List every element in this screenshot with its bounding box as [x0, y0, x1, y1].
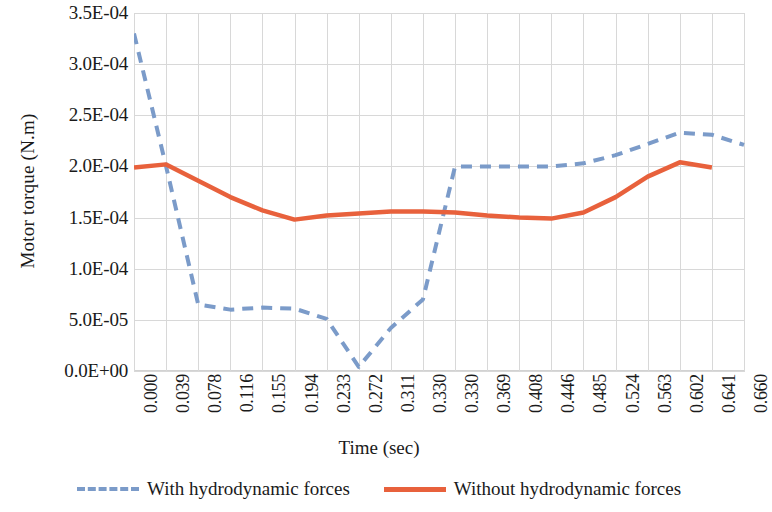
legend-swatch-dashed-icon	[77, 487, 139, 491]
x-tick-label: 0.369	[494, 374, 515, 413]
x-tick-label: 0.272	[366, 374, 387, 413]
chart-svg	[134, 13, 745, 371]
y-tick-label: 5.0E-05	[69, 309, 128, 331]
y-tick-label: 0.0E+00	[64, 360, 128, 382]
x-tick-label: 0.194	[302, 374, 323, 413]
y-axis-tick-labels: 0.0E+005.0E-051.0E-041.5E-042.0E-042.5E-…	[28, 0, 128, 390]
x-tick-label: 0.641	[719, 374, 740, 413]
legend-label: With hydrodynamic forces	[147, 478, 350, 500]
y-tick-label: 1.5E-04	[69, 207, 128, 229]
x-tick-label: 0.660	[751, 374, 772, 413]
x-axis-tick-labels: 0.0000.0390.0780.1160.1550.1940.2330.272…	[134, 374, 745, 436]
legend-item-without-hydrodynamic-forces: Without hydrodynamic forces	[384, 478, 681, 500]
y-tick-label: 3.0E-04	[69, 53, 128, 75]
legend-swatch-solid-icon	[384, 487, 446, 492]
y-tick-label: 3.5E-04	[69, 2, 128, 24]
legend-label: Without hydrodynamic forces	[454, 478, 681, 500]
series-line	[134, 162, 712, 219]
y-tick-label: 2.0E-04	[69, 155, 128, 177]
x-tick-label: 0.602	[687, 374, 708, 413]
x-tick-label: 0.233	[334, 374, 355, 413]
series-line	[134, 33, 744, 366]
series-canvas	[134, 13, 745, 371]
x-tick-label: 0.524	[623, 374, 644, 413]
legend-item-with-hydrodynamic-forces: With hydrodynamic forces	[77, 478, 350, 500]
y-tick-label: 1.0E-04	[69, 258, 128, 280]
y-tick-label: 2.5E-04	[69, 104, 128, 126]
x-tick-label: 0.155	[269, 374, 290, 413]
x-tick-label: 0.563	[655, 374, 676, 413]
plot-area	[134, 13, 745, 371]
x-tick-label: 0.078	[205, 374, 226, 413]
x-tick-label: 0.330	[462, 374, 483, 413]
x-tick-label: 0.000	[141, 374, 162, 413]
chart-legend: With hydrodynamic forces Without hydrody…	[0, 478, 758, 500]
x-tick-label: 0.408	[526, 374, 547, 413]
x-tick-label: 0.485	[590, 374, 611, 413]
x-tick-label: 0.446	[558, 374, 579, 413]
x-tick-label: 0.330	[430, 374, 451, 413]
x-tick-label: 0.311	[398, 374, 419, 412]
x-axis-title: Time (sec)	[0, 437, 758, 459]
x-tick-label: 0.039	[173, 374, 194, 413]
gridline-horizontal	[134, 371, 745, 372]
x-tick-label: 0.116	[237, 374, 258, 412]
